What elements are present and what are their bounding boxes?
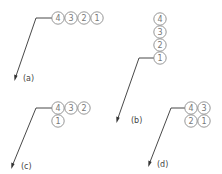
svg-text:4: 4 (157, 15, 162, 24)
panel-label-c: (c) (21, 162, 32, 171)
balloon-c-3: 3 (65, 102, 77, 114)
svg-text:2: 2 (81, 104, 86, 113)
svg-text:4: 4 (55, 14, 60, 23)
balloon-d-3: 3 (198, 102, 210, 114)
svg-text:3: 3 (201, 104, 206, 113)
arrowhead-c-icon (11, 163, 14, 169)
svg-text:3: 3 (68, 14, 73, 23)
leader-line-b (118, 58, 154, 118)
balloon-d-1: 1 (198, 115, 210, 127)
balloon-a-1: 1 (91, 12, 103, 24)
balloon-d-4: 4 (185, 102, 197, 114)
balloon-a-2: 2 (78, 12, 90, 24)
balloon-b-1: 1 (154, 52, 166, 64)
balloon-c-4: 4 (52, 102, 64, 114)
svg-text:2: 2 (81, 14, 86, 23)
svg-text:4: 4 (55, 104, 60, 113)
svg-text:4: 4 (188, 104, 193, 113)
balloon-diagram: 4 3 2 1 (a) 4 3 2 1 (b) 4 3 2 1 (c) 4 3 … (0, 0, 222, 174)
panel-label-a: (a) (23, 74, 34, 83)
balloon-a-3: 3 (65, 12, 77, 24)
arrowhead-b-icon (116, 117, 119, 123)
panel-label-b: (b) (131, 116, 142, 125)
panel-d: 4 3 2 1 (d) (148, 102, 210, 169)
svg-text:1: 1 (157, 54, 162, 63)
balloon-c-2: 2 (78, 102, 90, 114)
balloon-b-2: 2 (154, 39, 166, 51)
panel-a: 4 3 2 1 (a) (14, 12, 103, 83)
svg-text:1: 1 (201, 117, 206, 126)
leader-line-d (150, 108, 185, 162)
arrowhead-d-icon (148, 161, 151, 167)
panel-c: 4 3 2 1 (c) (11, 102, 90, 171)
arrowhead-a-icon (14, 75, 17, 81)
leader-line-a (16, 18, 52, 76)
svg-text:1: 1 (94, 14, 99, 23)
svg-text:2: 2 (157, 41, 162, 50)
svg-text:2: 2 (188, 117, 193, 126)
balloon-a-4: 4 (52, 12, 64, 24)
svg-text:3: 3 (157, 28, 162, 37)
balloon-b-4: 4 (154, 13, 166, 25)
balloon-c-1: 1 (52, 115, 64, 127)
svg-text:1: 1 (55, 117, 60, 126)
svg-text:3: 3 (68, 104, 73, 113)
balloon-b-3: 3 (154, 26, 166, 38)
panel-b: 4 3 2 1 (b) (116, 13, 166, 125)
panel-label-d: (d) (157, 160, 168, 169)
balloon-d-2: 2 (185, 115, 197, 127)
leader-line-c (13, 108, 52, 164)
